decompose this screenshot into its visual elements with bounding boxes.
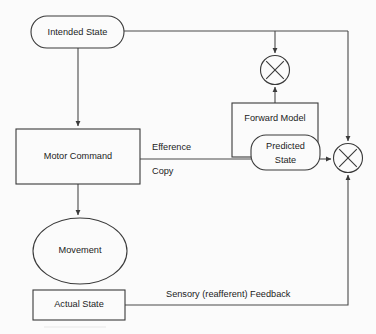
node-actual-state-label: Actual State [54,299,104,309]
node-intended-state-label: Intended State [48,27,108,37]
diagram-canvas: Intended State Motor Command Movement Ac… [0,0,376,334]
node-movement-label: Movement [59,245,102,255]
edge-label-sensory-feedback: Sensory (reafferent) Feedback [166,289,291,299]
node-forward-model-label: Forward Model [244,113,305,123]
scan-artifact [44,326,106,328]
node-predicted-state-label-line2: State [275,155,296,165]
edge-sensory-feedback [125,175,348,305]
edge-label-copy: Copy [152,166,174,176]
edge-label-efference: Efference [152,142,191,152]
node-predicted-state-label-line1: Predicted [266,141,305,151]
node-motor-command-label: Motor Command [44,151,112,161]
